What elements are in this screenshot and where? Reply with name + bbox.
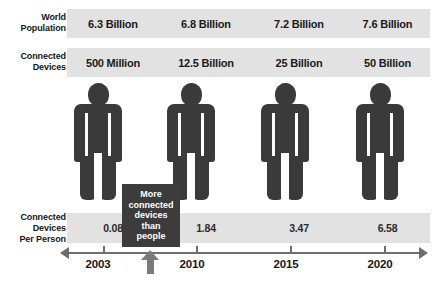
- row-label-devices-per-person-line2: Devices: [2, 223, 66, 234]
- row-label-world-population: World Population: [2, 12, 66, 34]
- cell-world-population-2003: 6.3 Billion: [67, 9, 159, 38]
- person-arm-gap-left: [85, 113, 88, 157]
- person-head-icon: [275, 83, 296, 106]
- callout-more-devices-than-people: More connected devices than people: [122, 184, 180, 247]
- person-arm-gap-left: [178, 113, 181, 157]
- person-arm-gap-right: [390, 113, 393, 157]
- band-connected-devices: 500 Million 12.5 Billion 25 Billion 50 B…: [67, 48, 430, 77]
- row-label-connected-devices-line2: Devices: [2, 62, 66, 73]
- person-arm-gap-right: [295, 113, 298, 157]
- timeline-axis: [68, 252, 420, 254]
- person-leg-gap: [187, 153, 195, 200]
- row-label-devices-per-person-line3: Per Person: [2, 234, 66, 245]
- cell-world-population-2020: 7.6 Billion: [345, 9, 430, 38]
- timeline-year-2020: 2020: [350, 258, 410, 270]
- timeline-year-2015: 2015: [256, 258, 316, 270]
- cell-devices-per-person-2020: 6.58: [345, 213, 430, 243]
- person-figure-2010: [167, 83, 215, 200]
- timeline-arrow-right-icon: [419, 247, 428, 259]
- cell-connected-devices-2003: 500 Million: [67, 48, 159, 77]
- row-label-connected-devices: Connected Devices: [2, 51, 66, 73]
- timeline-tick-2003: [103, 246, 105, 253]
- person-figure-2003: [74, 83, 122, 200]
- person-arm-gap-right: [201, 113, 204, 157]
- row-label-world-population-line1: World: [2, 12, 66, 23]
- person-figure-2020: [356, 83, 404, 200]
- cell-devices-per-person-2015: 3.47: [253, 213, 345, 243]
- cell-world-population-2015: 7.2 Billion: [253, 9, 345, 38]
- infographic-root: World Population 6.3 Billion 6.8 Billion…: [0, 0, 443, 282]
- row-label-world-population-line2: Population: [2, 23, 66, 34]
- timeline-tick-2020: [384, 246, 386, 253]
- row-label-connected-devices-line1: Connected: [2, 51, 66, 62]
- callout-line-3: devices: [128, 210, 173, 221]
- timeline-year-2010: 2010: [162, 258, 222, 270]
- callout-line-4: than: [128, 221, 173, 232]
- timeline-year-2003: 2003: [68, 258, 128, 270]
- band-world-population: 6.3 Billion 6.8 Billion 7.2 Billion 7.6 …: [67, 9, 430, 38]
- person-arm-gap-left: [272, 113, 275, 157]
- person-arm-gap-right: [108, 113, 111, 157]
- up-arrow-shaft: [147, 259, 154, 274]
- cell-connected-devices-2015: 25 Billion: [253, 48, 345, 77]
- timeline-tick-2015: [290, 246, 292, 253]
- cell-connected-devices-2020: 50 Billion: [345, 48, 430, 77]
- callout-line-5: people: [128, 231, 173, 242]
- timeline-tick-2010: [196, 246, 198, 253]
- timeline-crossover-up-arrow-icon: [141, 250, 159, 274]
- callout-line-2: connected: [128, 200, 173, 211]
- person-figure-2015: [261, 83, 309, 200]
- row-label-devices-per-person-line1: Connected: [2, 212, 66, 223]
- cell-world-population-2010: 6.8 Billion: [159, 9, 253, 38]
- person-leg-gap: [281, 153, 289, 200]
- person-leg-gap: [376, 153, 384, 200]
- row-label-devices-per-person: Connected Devices Per Person: [2, 212, 66, 245]
- person-head-icon: [88, 83, 109, 106]
- person-arm-gap-left: [367, 113, 370, 157]
- callout-line-1: More: [128, 189, 173, 200]
- person-head-icon: [181, 83, 202, 106]
- person-leg-gap: [94, 153, 102, 200]
- person-head-icon: [370, 83, 391, 106]
- cell-connected-devices-2010: 12.5 Billion: [159, 48, 253, 77]
